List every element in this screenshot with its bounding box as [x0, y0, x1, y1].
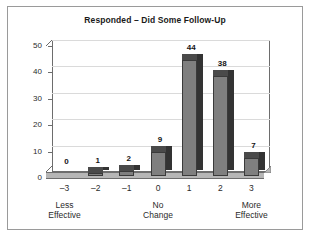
category-group-label-line2: Effective — [221, 210, 281, 220]
bar-value-label: 0 — [52, 158, 82, 166]
bar-value-label: 38 — [207, 60, 237, 68]
bar-front-face — [151, 152, 166, 176]
y-tick-label: 0 — [26, 174, 42, 182]
bar-front-face — [88, 173, 103, 176]
x-tick-label: 2 — [207, 184, 233, 193]
x-tick-label: 0 — [145, 184, 171, 193]
chart-title: Responded – Did Some Follow-Up — [8, 15, 302, 25]
y-tick-mark — [48, 125, 52, 126]
bar: 44 — [182, 54, 197, 176]
category-group-label-line1: More — [221, 200, 281, 210]
bar-front-face — [119, 171, 134, 176]
bar-side-face — [166, 146, 172, 170]
bar-top-face — [213, 70, 228, 76]
category-group-label: LessEffective — [35, 200, 95, 220]
bar-value-label: 7 — [238, 142, 268, 150]
x-tick-label: 3 — [238, 184, 264, 193]
bar-value-label: 44 — [176, 44, 206, 52]
bar-top-face — [182, 54, 197, 60]
bar-side-face — [134, 165, 140, 170]
bar: 9 — [151, 146, 166, 176]
bar-top-face — [244, 152, 259, 158]
plot-area: 01020304050 012944387 — [46, 40, 270, 178]
bar-side-face — [259, 152, 265, 170]
y-tick-mark — [48, 178, 52, 179]
y-tick-label: 30 — [26, 95, 42, 103]
y-tick-mark — [48, 46, 52, 47]
category-group-label: MoreEffective — [221, 200, 281, 220]
category-group-label-line1: No — [128, 200, 188, 210]
gridline — [52, 66, 270, 67]
bar: 7 — [244, 152, 259, 176]
y-tick-mark — [48, 99, 52, 100]
bar-top-face — [88, 167, 103, 173]
floor-right-cap-icon — [264, 166, 271, 173]
bar: 38 — [213, 70, 228, 176]
bar-front-face — [244, 158, 259, 176]
bar-front-face — [213, 76, 228, 176]
bar-value-label: 1 — [83, 157, 113, 165]
x-tick-label: –3 — [52, 184, 78, 193]
category-group-label-line2: Change — [128, 210, 188, 220]
x-tick-label: 1 — [176, 184, 202, 193]
x-tick-label: –1 — [114, 184, 140, 193]
gridline — [52, 40, 270, 41]
bar-side-face — [197, 54, 203, 170]
y-tick-label: 40 — [26, 68, 42, 76]
gridline — [52, 93, 270, 94]
bar-front-face — [182, 60, 197, 176]
category-group-label: NoChange — [128, 200, 188, 220]
y-tick-label: 50 — [26, 42, 42, 50]
depth-edge-top-icon — [46, 40, 56, 50]
bar-value-label: 9 — [145, 136, 175, 144]
y-tick-mark — [48, 72, 52, 73]
bar: 2 — [119, 165, 134, 176]
gridline — [52, 119, 270, 120]
y-tick-mark — [48, 152, 52, 153]
x-tick-label: –2 — [83, 184, 109, 193]
bar-side-face — [228, 70, 234, 170]
y-tick-label: 10 — [26, 148, 42, 156]
bar: 0 — [57, 170, 72, 176]
bar-top-face — [119, 165, 134, 171]
category-group-label-line2: Effective — [35, 210, 95, 220]
bar-side-face — [103, 167, 109, 170]
bar-top-face — [151, 146, 166, 152]
category-group-label-line1: Less — [35, 200, 95, 210]
y-tick-label: 20 — [26, 121, 42, 129]
bar: 1 — [88, 167, 103, 176]
bar-value-label: 2 — [114, 155, 144, 163]
chart-container: Responded – Did Some Follow-Up 010203040… — [7, 6, 303, 230]
